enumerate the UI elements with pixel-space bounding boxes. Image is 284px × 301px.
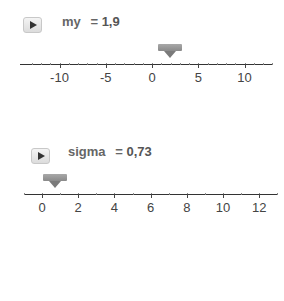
minor-tick xyxy=(50,63,51,65)
tick-label: 4 xyxy=(111,200,118,215)
minor-tick xyxy=(189,63,190,65)
minor-tick xyxy=(78,63,79,65)
tick-label: 2 xyxy=(75,200,82,215)
major-tick xyxy=(60,64,61,68)
minor-tick xyxy=(115,63,116,65)
major-tick xyxy=(187,194,188,198)
play-icon xyxy=(38,152,45,160)
minor-tick xyxy=(143,63,144,65)
play-button-my[interactable] xyxy=(23,17,42,33)
minor-tick xyxy=(161,63,162,65)
major-tick xyxy=(245,64,246,68)
major-tick xyxy=(259,194,260,198)
variable-value: 0,73 xyxy=(126,144,151,159)
tick-label: 6 xyxy=(147,200,154,215)
minor-tick xyxy=(69,63,70,65)
tick-label: 8 xyxy=(183,200,190,215)
tick-label: 5 xyxy=(195,70,202,85)
tick-label: 12 xyxy=(252,200,266,215)
minor-tick xyxy=(254,63,255,65)
major-tick xyxy=(78,194,79,198)
minor-tick xyxy=(277,193,278,195)
play-icon xyxy=(30,21,37,29)
minor-tick xyxy=(41,63,42,65)
minor-tick xyxy=(180,63,181,65)
major-tick xyxy=(106,64,107,68)
minor-tick xyxy=(263,63,264,65)
minor-tick xyxy=(217,63,218,65)
tick-label: 10 xyxy=(216,200,230,215)
tick-label: 10 xyxy=(237,70,251,85)
major-tick xyxy=(223,194,224,198)
minor-tick xyxy=(97,63,98,65)
play-button-sigma[interactable] xyxy=(31,148,50,164)
major-tick xyxy=(152,64,153,68)
tick-label: -10 xyxy=(50,70,69,85)
tick-label: -5 xyxy=(100,70,112,85)
variable-value: 1,9 xyxy=(102,14,120,29)
slider-label-my: my = 1,9 xyxy=(62,14,120,29)
minor-tick xyxy=(208,63,209,65)
minor-tick xyxy=(205,193,206,195)
tick-label: 0 xyxy=(38,200,45,215)
slider-track-my[interactable] xyxy=(20,64,272,65)
variable-name: sigma xyxy=(68,144,106,159)
minor-tick xyxy=(169,193,170,195)
minor-tick xyxy=(171,63,172,65)
major-tick xyxy=(198,64,199,68)
variable-name: my xyxy=(62,14,81,29)
tick-label: 0 xyxy=(148,70,155,85)
minor-tick xyxy=(87,63,88,65)
major-tick xyxy=(42,194,43,198)
minor-tick xyxy=(96,193,97,195)
major-tick xyxy=(114,194,115,198)
minor-tick xyxy=(235,63,236,65)
slider-label-sigma: sigma = 0,73 xyxy=(68,144,152,159)
equals-sign: = xyxy=(90,14,98,29)
minor-tick xyxy=(60,193,61,195)
minor-tick xyxy=(124,63,125,65)
minor-tick xyxy=(133,193,134,195)
major-tick xyxy=(151,194,152,198)
minor-tick xyxy=(32,63,33,65)
minor-tick xyxy=(24,193,25,195)
minor-tick xyxy=(272,63,273,65)
minor-tick xyxy=(226,63,227,65)
equals-sign: = xyxy=(115,144,123,159)
minor-tick xyxy=(134,63,135,65)
minor-tick xyxy=(241,193,242,195)
